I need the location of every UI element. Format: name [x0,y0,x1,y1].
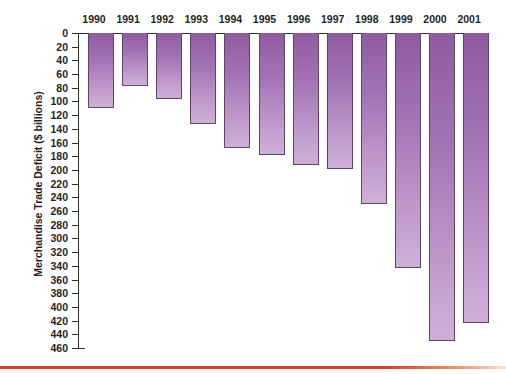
y-axis-tick-label: 80 [28,83,68,94]
y-axis-tick [72,293,78,294]
bar-1997 [327,33,353,169]
y-axis-tick-label: 260 [28,206,68,217]
y-axis-tick [72,143,78,144]
y-axis-tick-label: 400 [28,302,68,313]
y-axis-tick [72,280,78,281]
bottom-accent-rule-fade [386,366,506,369]
y-axis-tick-label: 440 [28,329,68,340]
y-axis-tick [72,211,78,212]
y-axis-tick-label: 420 [28,316,68,327]
y-axis-tick-label: 340 [28,261,68,272]
y-axis-tick [72,33,78,34]
y-axis-tick-label: 100 [28,96,68,107]
y-axis-tick [72,170,78,171]
y-axis-spine [78,33,79,348]
bar-1999 [395,33,421,268]
bar-2000 [429,33,455,341]
y-axis-tick-label: 0 [28,28,68,39]
y-axis-tick [72,88,78,89]
y-axis-tick-label: 220 [28,179,68,190]
y-axis-tick-label: 460 [28,343,68,354]
y-axis-tick-label: 120 [28,110,68,121]
y-axis-tick [72,115,78,116]
y-axis-tick [72,74,78,75]
y-axis-tick [72,266,78,267]
y-axis-tick [72,321,78,322]
bar-1990 [88,33,114,108]
y-axis-tick-label: 200 [28,165,68,176]
y-axis-tick [72,156,78,157]
chart-figure: Merchandise Trade Deficit ($ billions) 0… [0,0,506,374]
y-axis-tick [72,225,78,226]
y-axis-tick [72,60,78,61]
y-axis-tick-label: 300 [28,233,68,244]
y-axis-tick-label: 320 [28,247,68,258]
y-axis-tick [72,307,78,308]
y-axis-tick-label: 60 [28,69,68,80]
y-axis-tick-label: 40 [28,55,68,66]
x-axis-year-label: 2001 [449,14,489,25]
y-axis-tick-label: 20 [28,42,68,53]
y-axis-tick [72,238,78,239]
y-axis-axis-foot [78,348,85,349]
y-axis-tick [72,252,78,253]
bar-1995 [259,33,285,155]
y-axis-tick-label: 180 [28,151,68,162]
bar-1992 [156,33,182,99]
y-axis-tick-label: 160 [28,138,68,149]
plot-area: 0204060801001201401601802002202402602803… [78,33,488,348]
bar-1994 [224,33,250,148]
y-axis-tick-label: 240 [28,192,68,203]
y-axis-tick [72,47,78,48]
bar-1998 [361,33,387,204]
bar-1991 [122,33,148,86]
bar-1996 [293,33,319,165]
bar-1993 [190,33,216,124]
y-axis-tick-label: 380 [28,288,68,299]
y-axis-tick-label: 140 [28,124,68,135]
y-axis-tick-label: 280 [28,220,68,231]
bar-2001 [463,33,489,323]
bottom-accent-rule [0,366,506,369]
y-axis-tick [72,197,78,198]
y-axis-tick [72,348,78,349]
y-axis-tick [72,101,78,102]
y-axis-tick [72,129,78,130]
y-axis-tick [72,184,78,185]
y-axis-tick [72,334,78,335]
y-axis-tick-label: 360 [28,275,68,286]
